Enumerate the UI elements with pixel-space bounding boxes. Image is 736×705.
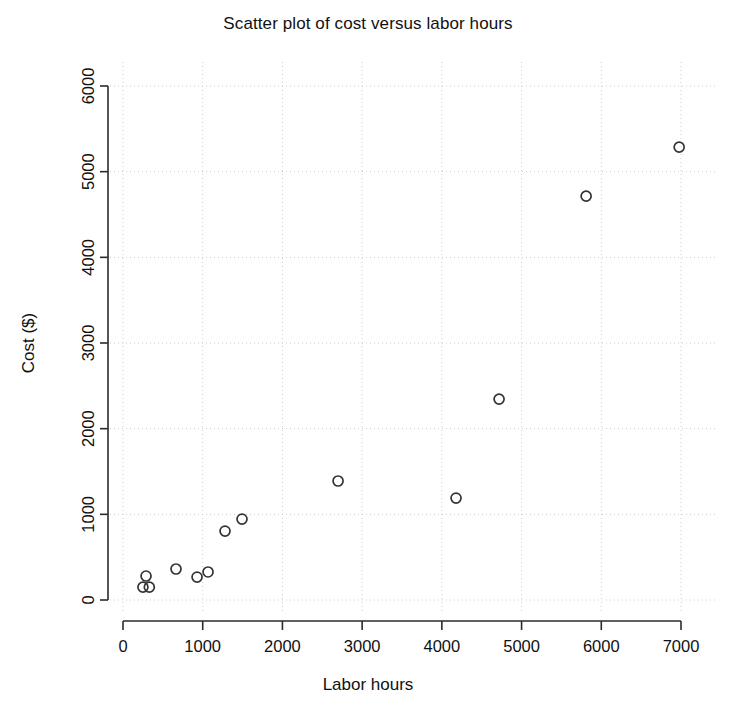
data-point — [171, 564, 181, 574]
y-axis-title: Cost ($) — [19, 313, 38, 373]
axis-lines — [108, 86, 681, 621]
data-point — [192, 572, 202, 582]
chart-figure: Scatter plot of cost versus labor hours … — [0, 0, 736, 705]
y-tick-labels: 0100020003000400050006000 — [79, 68, 97, 605]
y-tick-label: 3000 — [79, 325, 97, 362]
y-tick-label: 6000 — [79, 68, 97, 105]
axis-ticks — [100, 86, 681, 630]
data-point — [451, 493, 461, 503]
y-tick-label: 2000 — [79, 410, 97, 447]
x-tick-label: 2000 — [264, 637, 301, 655]
x-tick-label: 0 — [118, 637, 127, 655]
y-tick-label: 1000 — [79, 496, 97, 533]
y-tick-label: 4000 — [79, 239, 97, 276]
y-tick-label: 0 — [79, 595, 97, 604]
x-tick-label: 3000 — [344, 637, 381, 655]
data-points — [138, 142, 684, 592]
data-point — [141, 571, 151, 581]
scatter-plot: 01000200030004000500060007000 0100020003… — [0, 0, 736, 705]
y-tick-label: 5000 — [79, 153, 97, 190]
data-point — [494, 394, 504, 404]
x-tick-labels: 01000200030004000500060007000 — [118, 637, 699, 655]
x-tick-label: 7000 — [663, 637, 700, 655]
data-point — [237, 514, 247, 524]
x-axis-title: Labor hours — [323, 675, 414, 694]
gridlines — [110, 62, 716, 612]
x-tick-label: 4000 — [423, 637, 460, 655]
data-point — [674, 142, 684, 152]
x-tick-label: 6000 — [583, 637, 620, 655]
data-point — [220, 526, 230, 536]
data-point — [144, 582, 154, 592]
x-tick-label: 5000 — [503, 637, 540, 655]
x-tick-label: 1000 — [184, 637, 221, 655]
data-point — [581, 191, 591, 201]
data-point — [333, 476, 343, 486]
data-point — [203, 567, 213, 577]
